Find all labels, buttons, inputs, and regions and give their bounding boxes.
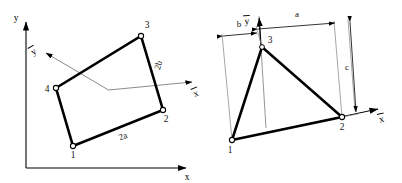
node-marker-2-right (339, 114, 344, 119)
node-marker-3-left (138, 33, 143, 38)
triangular-element-outline (232, 47, 342, 140)
node-label-3-left: 3 (145, 20, 150, 30)
local-ybar-axis-label-left: y (28, 45, 39, 57)
edge-label-2b: 2b (152, 59, 164, 71)
node-marker-2-left (160, 107, 165, 112)
local-xbar-axis-line-left (109, 82, 193, 90)
dimension-a-group: a (258, 9, 335, 29)
dimension-c-label: c (345, 62, 349, 72)
node-marker-1-right (229, 137, 234, 142)
extension-line-node1-up (222, 34, 232, 140)
dimension-a-line (258, 23, 335, 29)
node-label-4-left: 4 (45, 84, 50, 94)
node-label-1-right: 1 (228, 145, 233, 155)
global-y-axis-label: y (14, 13, 19, 23)
local-xbar-axis-label-right: x (377, 113, 386, 125)
dimension-b-group: b (223, 19, 257, 36)
global-x-axis-label: x (185, 172, 190, 182)
right-diagram-group: x y b a (222, 9, 386, 155)
dimension-b-line (223, 33, 257, 36)
node-label-2-right: 2 (340, 122, 345, 132)
extension-line-node2-up (334, 21, 342, 117)
svg-text:x: x (192, 88, 200, 99)
figure-container: y x y x 1 2 3 (0, 0, 402, 183)
svg-text:y: y (244, 16, 250, 26)
local-ybar-axis-label-right: y (243, 15, 251, 26)
node-marker-4-left (53, 85, 58, 90)
node-label-2-left: 2 (164, 114, 169, 124)
node-label-3-right: 3 (268, 35, 273, 45)
left-diagram-group: y x y x 1 2 3 (14, 13, 201, 182)
dimension-b-label: b (237, 19, 242, 29)
dimension-c-line (350, 22, 356, 112)
node-marker-1-left (70, 143, 75, 148)
engineering-diagram: y x y x 1 2 3 (0, 0, 402, 183)
extension-line-c-right (348, 19, 355, 111)
dimension-a-label: a (295, 9, 299, 19)
quadrilateral-element-outline (56, 36, 163, 146)
edge-label-2a: 2a (117, 130, 129, 142)
svg-text:x: x (378, 114, 385, 125)
local-xbar-axis-label-left: x (191, 87, 201, 99)
node-label-1-left: 1 (71, 150, 76, 160)
node-marker-3-right (260, 45, 265, 50)
local-ybar-axis-line-left (46, 53, 109, 90)
